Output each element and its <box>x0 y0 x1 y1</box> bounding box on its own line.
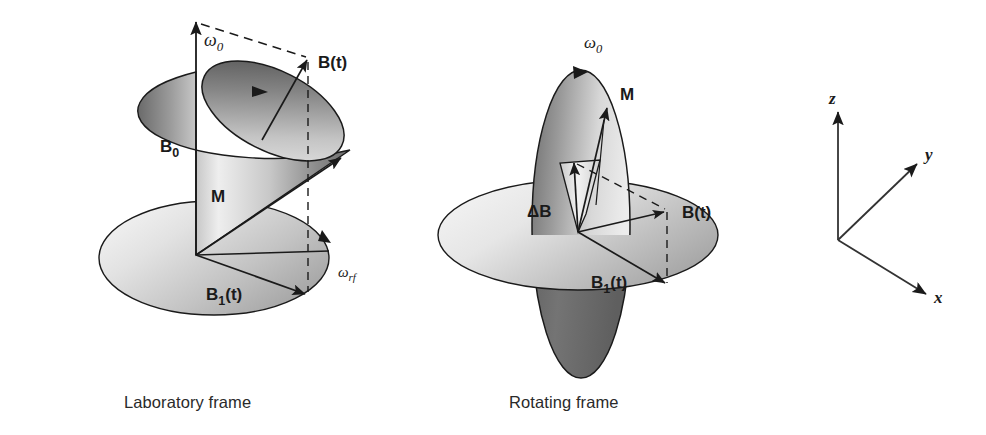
m-label-lab: M <box>211 187 225 206</box>
coordinate-axes: z y x <box>828 89 943 307</box>
diagram-canvas: ω0 B0 M B(t) B1(t) ωrf <box>0 0 986 435</box>
bt-label-rot: B(t) <box>682 203 711 222</box>
y-axis-arrow <box>838 164 917 240</box>
omega-rf-rotation-arrow-icon <box>318 230 331 243</box>
rotating-frame-caption: Rotating frame <box>509 393 619 412</box>
delta-b-label: ΔB <box>527 202 552 221</box>
y-axis-label: y <box>923 145 933 164</box>
omega0-label-lab: ω0 <box>204 30 224 54</box>
z-axis-label: z <box>828 89 836 108</box>
m-label-rot: M <box>620 85 634 104</box>
x-axis-arrow <box>838 240 926 294</box>
rotating-frame-panel: ω0 M ΔB B(t) B1(t) <box>438 33 718 378</box>
laboratory-frame-caption: Laboratory frame <box>124 393 251 412</box>
bt-label-lab: B(t) <box>318 53 347 72</box>
omega-rf-label: ωrf <box>338 264 358 283</box>
laboratory-frame-panel: ω0 B0 M B(t) B1(t) ωrf <box>99 22 360 315</box>
omega0-label-rot: ω0 <box>584 33 603 56</box>
x-axis-label: x <box>933 288 943 307</box>
nmr-precession-figure: ω0 B0 M B(t) B1(t) ωrf <box>0 0 986 435</box>
